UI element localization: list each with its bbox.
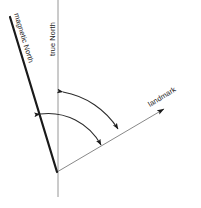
true-north-label: true North [48,22,57,56]
landmark-label: landmark [146,85,177,109]
declination-arc [63,92,118,129]
diagram-canvas: magnetic North true North landmark [0,0,201,208]
compass-declination-diagram: magnetic North true North landmark [0,0,201,208]
bearing-arc [40,113,101,145]
